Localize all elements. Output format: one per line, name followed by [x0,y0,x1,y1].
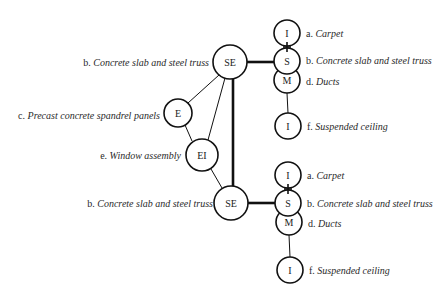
label-text: Carpet [315,28,343,39]
svg-text:SE: SE [224,57,236,68]
svg-text:I: I [288,265,291,276]
label-e: c. Precast concrete spandrel panels [18,110,160,122]
label-prefix: b. [306,55,314,66]
label-text: Suspended ceiling [315,121,387,132]
label-bottom-carpet: a. Carpet [307,170,344,182]
svg-text:I: I [285,28,288,39]
edge-e-ei [185,125,192,141]
label-ei: e. Window assembly [100,150,181,162]
label-prefix: c. [18,110,25,121]
label-prefix: a. [307,170,314,181]
label-text: Precast concrete spandrel panels [28,110,160,121]
label-prefix: f. [309,265,315,276]
svg-text:EI: EI [197,150,206,161]
svg-text:SE: SE [225,198,237,209]
label-text: Ducts [318,218,341,229]
label-text: Concrete slab and steel truss [316,55,432,66]
node-se-top: SE [213,45,247,79]
label-top-ducts: d. Ducts [306,76,339,88]
label-prefix: d. [308,218,316,229]
label-text: Concrete slab and steel truss [93,57,209,68]
diagram-canvas: SE E EI SE I M S I I M S [0,0,443,298]
node-i-top-ceiling: I [275,113,301,139]
edge-ei-se-bottom [211,169,222,188]
label-prefix: b. [307,198,315,209]
label-text: Ducts [316,76,339,87]
label-se-top: b. Concrete slab and steel truss [83,57,209,69]
svg-text:I: I [286,170,289,181]
label-prefix: d. [306,76,314,87]
label-se-bottom: b. Concrete slab and steel truss [87,198,213,210]
label-text: Carpet [316,170,344,181]
svg-text:M: M [283,75,292,86]
label-prefix: f. [307,121,313,132]
label-prefix: b. [83,57,91,68]
node-i-bottom-ceiling: I [277,257,303,283]
edge-se-top-e [188,75,219,103]
node-ei: EI [186,139,218,171]
label-bottom-ducts: d. Ducts [308,218,341,230]
label-text: Suspended ceiling [317,265,389,276]
svg-text:S: S [285,198,291,209]
edge-se-top-ei [208,78,225,140]
svg-text:I: I [286,121,289,132]
label-prefix: e. [100,150,107,161]
edge-m-bottom-i-bottom [289,235,290,257]
label-top-carpet: a. Carpet [306,28,343,40]
svg-text:M: M [285,217,294,228]
node-se-bottom: SE [214,186,248,220]
label-text: Concrete slab and steel truss [97,198,213,209]
label-text: Window assembly [110,150,181,161]
label-text: Concrete slab and steel truss [317,198,433,209]
label-prefix: a. [306,28,313,39]
svg-text:E: E [175,108,181,119]
label-top-ceiling: f. Suspended ceiling [307,121,388,133]
svg-text:S: S [284,56,290,67]
label-top-slab: b. Concrete slab and steel truss [306,55,432,67]
edge-m-top-i-top [287,93,288,113]
label-bottom-slab: b. Concrete slab and steel truss [307,198,433,210]
label-prefix: b. [87,198,95,209]
node-e: E [164,99,192,127]
label-bottom-ceiling: f. Suspended ceiling [309,265,390,277]
